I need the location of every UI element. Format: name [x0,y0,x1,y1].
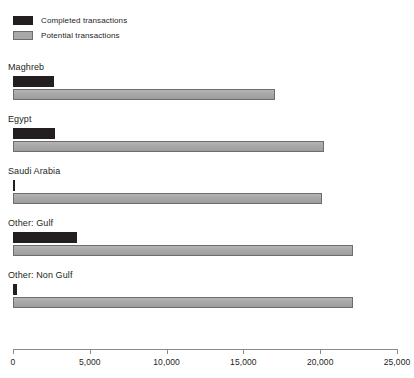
x-axis-tick-label: 20,000 [307,357,334,367]
legend-label-completed: Completed transactions [41,16,127,26]
legend-swatch-completed-icon [13,16,33,25]
category-label-saudi-arabia: Saudi Arabia [8,166,60,177]
legend-swatch-potential-icon [13,31,33,40]
category-label-egypt: Egypt [8,114,32,125]
bar-completed-saudi-arabia [13,180,15,191]
bar-completed-other-gulf [13,232,77,243]
bar-completed-other-non-gulf [13,284,17,295]
bar-potential-other-gulf [13,245,353,256]
chart-plot-area: Maghreb Egypt Saudi Arabia Other: Gulf O… [0,62,414,349]
x-axis-tick-label: 15,000 [230,357,257,367]
x-axis: 05,00010,00015,00020,00025,000 [0,349,414,378]
legend-label-potential: Potential transactions [41,31,120,41]
bar-potential-other-non-gulf [13,297,353,308]
bar-potential-egypt [13,141,324,152]
bar-completed-maghreb [13,76,54,87]
chart-legend: Completed transactions Potential transac… [13,14,403,44]
x-axis-tick-mark [397,349,398,354]
bar-potential-saudi-arabia [13,193,322,204]
category-label-maghreb: Maghreb [8,62,44,73]
bar-completed-egypt [13,128,55,139]
x-axis-tick-mark [90,349,91,354]
legend-item-completed: Completed transactions [13,14,403,27]
x-axis-tick-mark [167,349,168,354]
legend-item-potential: Potential transactions [13,29,403,42]
x-axis-line [13,349,397,350]
x-axis-tick-label: 10,000 [153,357,180,367]
bar-potential-maghreb [13,89,275,100]
category-label-other-non-gulf: Other: Non Gulf [8,270,73,281]
x-axis-tick-mark [13,349,14,354]
x-axis-tick-label: 0 [11,357,16,367]
x-axis-tick-mark [243,349,244,354]
x-axis-tick-label: 25,000 [384,357,411,367]
category-label-other-gulf: Other: Gulf [8,218,53,229]
x-axis-tick-label: 5,000 [79,357,101,367]
x-axis-tick-mark [320,349,321,354]
